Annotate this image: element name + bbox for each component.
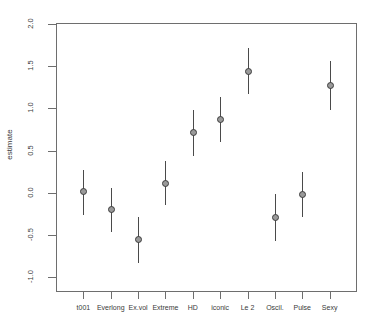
x-tick-mark — [248, 292, 249, 299]
y-tick-mark — [48, 151, 56, 152]
y-tick-label: -0.5 — [26, 219, 35, 249]
x-tick-mark — [165, 292, 166, 299]
data-point-marker — [327, 82, 334, 89]
y-tick-mark — [48, 66, 56, 67]
data-point-marker — [245, 68, 252, 75]
y-tick-label: 0.0 — [26, 177, 35, 207]
y-tick-label: 2.0 — [26, 9, 35, 39]
x-tick-mark — [138, 292, 139, 299]
y-tick-mark — [48, 193, 56, 194]
y-axis-label: estimate — [5, 115, 14, 175]
data-point-marker — [272, 214, 279, 221]
y-tick-label: 1.0 — [26, 93, 35, 123]
x-tick-mark — [302, 292, 303, 299]
y-tick-mark — [48, 108, 56, 109]
x-tick-mark — [330, 292, 331, 299]
coefficient-plot: estimate 2.01.51.00.50.0-0.5-1.0 t001Eve… — [0, 0, 370, 332]
data-point-marker — [108, 206, 115, 213]
x-tick-mark — [220, 292, 221, 299]
plot-frame — [56, 23, 357, 292]
x-tick-mark — [275, 292, 276, 299]
y-tick-label: 0.5 — [26, 135, 35, 165]
x-tick-mark — [111, 292, 112, 299]
y-tick-label: 1.5 — [26, 51, 35, 81]
y-tick-mark — [48, 24, 56, 25]
data-point-marker — [217, 116, 224, 123]
x-tick-mark — [83, 292, 84, 299]
y-tick-mark — [48, 277, 56, 278]
y-tick-label: -1.0 — [26, 262, 35, 292]
x-tick-label: Sexy — [303, 304, 357, 311]
y-tick-mark — [48, 235, 56, 236]
x-tick-mark — [193, 292, 194, 299]
